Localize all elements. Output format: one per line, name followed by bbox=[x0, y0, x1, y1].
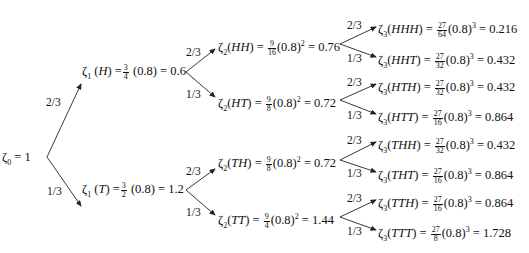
prob-label: 1/3 bbox=[347, 167, 362, 179]
prob-label: 2/3 bbox=[186, 165, 201, 177]
node-z3-HHT: ζ3(HHT) = 2732(0.8)3 = 0.432 bbox=[378, 50, 515, 73]
prob-label: 1/3 bbox=[47, 185, 62, 197]
prob-label: 1/3 bbox=[347, 225, 362, 237]
node-z2-TT: ζ2(TT) = 94(0.8)2 = 1.44 bbox=[218, 210, 334, 233]
prob-label: 2/3 bbox=[347, 134, 362, 146]
node-value: 1 bbox=[25, 150, 31, 164]
node-z2-HH: ζ2(HH) = 916(0.8)2 = 0.76 bbox=[218, 37, 340, 60]
node-z3-THT: ζ3(THT) = 2716(0.8)3 = 0.864 bbox=[378, 165, 513, 188]
node-z1-H: ζ1 (H) =34 (0.8) = 0.6 bbox=[82, 64, 186, 84]
prob-label: 2/3 bbox=[186, 46, 201, 58]
node-z3-THH: ζ3(THH) = 2732(0.8)3 = 0.432 bbox=[378, 135, 515, 158]
node-z2-HT: ζ2(HT) = 98(0.8)2 = 0.72 bbox=[218, 93, 336, 116]
node-z3-HTH: ζ3(HTH) = 2732(0.8)3 = 0.432 bbox=[378, 77, 515, 100]
node-z3-TTH: ζ3(TTH) = 2716(0.8)3 = 0.864 bbox=[378, 193, 513, 216]
node-z2-TH: ζ2(TH) = 98(0.8)2 = 0.72 bbox=[218, 153, 336, 176]
prob-label: 1/3 bbox=[347, 52, 362, 64]
prob-label: 1/3 bbox=[186, 88, 201, 100]
prob-label: 2/3 bbox=[347, 76, 362, 88]
prob-label: 2/3 bbox=[347, 19, 362, 31]
prob-label: 2/3 bbox=[46, 96, 61, 108]
prob-label: 2/3 bbox=[347, 192, 362, 204]
node-z1-T: ζ1 (T) =32 (0.8) = 1.2 bbox=[82, 182, 184, 202]
prob-label: 1/3 bbox=[186, 206, 201, 218]
node-z3-HHH: ζ3(HHH) = 2764(0.8)3 = 0.216 bbox=[378, 19, 517, 42]
node-root: ζ0 = 1 bbox=[2, 150, 31, 170]
prob-label: 1/3 bbox=[347, 109, 362, 121]
node-z3-HTT: ζ3(HTT) = 2716(0.8)3 = 0.864 bbox=[378, 107, 513, 130]
node-z3-TTT: ζ3(TTT) = 278(0.8)3 = 1.728 bbox=[378, 223, 511, 246]
